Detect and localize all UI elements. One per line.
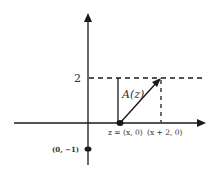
y-tick-2-label: 2: [74, 72, 81, 85]
point-neg1-dot: [85, 146, 92, 151]
x-axis-arrow-icon: [197, 119, 206, 127]
x-axis: [14, 119, 206, 127]
point-z-label: z = (x, 0): [108, 128, 143, 137]
point-z-dot: [117, 120, 124, 126]
point-x-plus-2-label: (x + 2, 0): [147, 128, 183, 137]
diagram-canvas: 2 A(z) z = (x, 0) (x + 2, 0) (0, −1): [0, 0, 219, 174]
y-axis-arrow-icon: [84, 13, 92, 22]
y-axis: [84, 13, 92, 165]
area-label: A(z): [121, 88, 144, 101]
point-neg1-label: (0, −1): [52, 145, 79, 154]
